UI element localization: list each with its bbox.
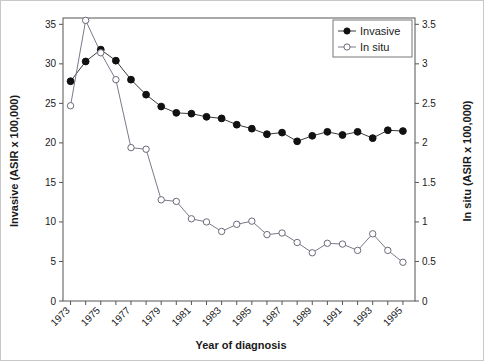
x-tick-label: 1987: [260, 304, 284, 328]
y-right-axis-title: In situ (ASIR x 100,000): [461, 100, 473, 221]
y-left-tick-label: 30: [45, 58, 57, 69]
data-point-invasive: [173, 109, 180, 116]
data-point-invasive: [279, 129, 286, 136]
data-point-invasive: [354, 128, 361, 135]
data-point-in-situ: [82, 17, 88, 23]
data-point-invasive: [339, 132, 346, 139]
data-point-invasive: [294, 138, 301, 145]
data-point-invasive: [203, 113, 210, 120]
data-point-in-situ: [385, 247, 391, 253]
y-right-tick-label: 3.5: [422, 19, 436, 30]
x-tick-label: 1973: [48, 304, 72, 328]
data-point-in-situ: [128, 144, 134, 150]
y-left-tick-label: 15: [45, 177, 57, 188]
data-point-invasive: [384, 127, 391, 134]
x-tick-label: 1989: [290, 304, 314, 328]
legend-marker-invasive: [344, 28, 350, 34]
y-right-tick-label: 2: [422, 137, 428, 148]
legend-marker-in-situ: [344, 44, 350, 50]
data-point-in-situ: [173, 198, 179, 204]
y-right-tick-label: 0: [422, 296, 428, 307]
data-point-invasive: [82, 58, 89, 65]
y-right-tick-label: 3: [422, 58, 428, 69]
y-left-tick-label: 0: [50, 296, 56, 307]
x-tick-label: 1979: [139, 304, 163, 328]
x-tick-label: 1985: [230, 304, 254, 328]
data-point-invasive: [218, 115, 225, 122]
data-point-invasive: [233, 121, 240, 128]
data-point-invasive: [309, 132, 316, 139]
y-left-tick-group: 05101520253035: [45, 19, 63, 307]
y-right-tick-label: 1: [422, 216, 428, 227]
x-tick-label: 1977: [109, 304, 133, 328]
data-point-in-situ: [143, 146, 149, 152]
data-point-invasive: [400, 128, 407, 135]
data-point-in-situ: [294, 239, 300, 245]
y-right-tick-label: 2.5: [422, 98, 436, 109]
data-point-in-situ: [369, 231, 375, 237]
data-point-in-situ: [158, 197, 164, 203]
y-left-tick-label: 35: [45, 19, 57, 30]
data-point-in-situ: [218, 228, 224, 234]
y-left-tick-label: 5: [50, 256, 56, 267]
x-tick-label: 1981: [169, 304, 193, 328]
data-point-in-situ: [98, 50, 104, 56]
data-point-in-situ: [279, 230, 285, 236]
data-point-invasive: [158, 103, 165, 110]
x-tick-label: 1975: [79, 304, 103, 328]
data-point-in-situ: [249, 218, 255, 224]
x-axis-title: Year of diagnosis: [195, 339, 286, 351]
data-point-invasive: [369, 135, 376, 142]
x-tick-label: 1983: [200, 304, 224, 328]
data-point-invasive: [67, 78, 74, 85]
data-point-in-situ: [113, 76, 119, 82]
legend-label-invasive: Invasive: [360, 25, 400, 37]
chart-legend: Invasive In situ: [333, 20, 412, 57]
chart-canvas: 05101520253035 00.511.522.533.5 19731975…: [1, 1, 484, 361]
x-tick-label: 1995: [381, 304, 405, 328]
y-left-tick-label: 20: [45, 137, 57, 148]
data-point-in-situ: [264, 231, 270, 237]
data-point-invasive: [188, 110, 195, 117]
y-right-tick-group: 00.511.522.533.5: [415, 19, 436, 307]
data-point-in-situ: [203, 219, 209, 225]
data-point-in-situ: [324, 240, 330, 246]
x-tick-group: 1973197519771979198119831985198719891991…: [48, 301, 404, 328]
y-left-tick-label: 25: [45, 98, 57, 109]
data-point-in-situ: [188, 216, 194, 222]
data-point-invasive: [112, 57, 119, 64]
data-point-in-situ: [67, 103, 73, 109]
y-right-tick-label: 1.5: [422, 177, 436, 188]
data-point-invasive: [264, 131, 271, 138]
data-point-invasive: [143, 91, 150, 98]
y-left-axis-title: Invasive (ASIR x 100,000): [8, 95, 20, 227]
data-point-in-situ: [309, 250, 315, 256]
x-tick-label: 1993: [351, 304, 375, 328]
chart-figure: 05101520253035 00.511.522.533.5 19731975…: [0, 0, 484, 361]
data-point-invasive: [128, 76, 135, 83]
y-right-tick-label: 0.5: [422, 256, 436, 267]
y-left-tick-label: 10: [45, 216, 57, 227]
legend-label-in-situ: In situ: [360, 41, 389, 53]
data-point-invasive: [248, 125, 255, 132]
data-point-in-situ: [339, 241, 345, 247]
data-point-in-situ: [400, 259, 406, 265]
data-point-in-situ: [354, 247, 360, 253]
data-point-invasive: [324, 128, 331, 135]
data-point-in-situ: [234, 221, 240, 227]
x-tick-label: 1991: [320, 304, 344, 328]
